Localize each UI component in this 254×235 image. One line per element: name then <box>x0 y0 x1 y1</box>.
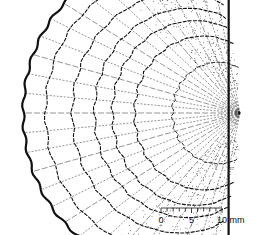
stipple-dot <box>197 215 198 216</box>
stipple-dot <box>226 67 227 68</box>
stipple-dot <box>193 38 194 39</box>
stipple-dot <box>194 58 195 59</box>
stipple-dot <box>164 4 165 5</box>
stipple-dot <box>200 209 201 210</box>
stipple-dot <box>215 165 216 166</box>
stipple-dot <box>197 171 198 172</box>
stipple-dot <box>200 173 201 174</box>
stipple-dot <box>186 191 187 192</box>
radial-rib <box>52 19 241 113</box>
stipple-dot <box>231 90 232 91</box>
stipple-dot <box>226 146 227 147</box>
stipple-dot <box>209 57 210 58</box>
stipple-dot <box>219 64 220 65</box>
stipple-dot <box>216 68 217 69</box>
stipple-dot <box>207 55 208 56</box>
stipple-dot <box>157 229 158 230</box>
stipple-dot <box>180 25 181 26</box>
stipple-dot <box>177 226 178 227</box>
stipple-dot <box>204 0 205 1</box>
stipple-dot <box>218 80 219 81</box>
stipple-dot <box>234 152 235 153</box>
stipple-dot <box>218 185 219 186</box>
stipple-dot <box>188 33 189 34</box>
stipple-dot <box>196 34 197 35</box>
stipple-dot <box>230 60 231 61</box>
stipple-dot <box>236 147 237 148</box>
stipple-dot <box>236 146 237 147</box>
stipple-dot <box>222 181 223 182</box>
stipple-dot <box>203 66 204 67</box>
stipple-dot <box>214 190 215 191</box>
stipple-dot <box>221 192 222 193</box>
stipple-dot <box>223 156 224 157</box>
stipple-dot <box>198 194 199 195</box>
stipple-dot <box>138 234 139 235</box>
stipple-dot <box>221 16 222 17</box>
stipple-dot <box>213 189 214 190</box>
stipple-dot <box>176 27 177 28</box>
stipple-dot <box>209 166 210 167</box>
stipple-dot <box>224 155 225 156</box>
stipple-dot <box>235 80 236 81</box>
stipple-dot <box>194 60 195 61</box>
stipple-dot <box>216 169 217 170</box>
stipple-dot <box>202 168 203 169</box>
stipple-dot <box>234 81 235 82</box>
stipple-dot <box>203 33 204 34</box>
stipple-dot <box>204 155 205 156</box>
stipple-dot <box>197 173 198 174</box>
stipple-dot <box>166 27 167 28</box>
stipple-dot <box>212 67 213 68</box>
stipple-dot <box>204 25 205 26</box>
stipple-dot <box>215 22 216 23</box>
stipple-dot <box>161 194 162 195</box>
stipple-dot <box>189 21 190 22</box>
stipple-dot <box>165 211 166 212</box>
stipple-dot <box>234 162 235 163</box>
stipple-dot <box>205 154 206 155</box>
stipple-dot <box>200 65 201 66</box>
stipple-dot <box>167 0 168 1</box>
stipple-dot <box>217 68 218 69</box>
stipple-dot <box>171 8 172 9</box>
stipple-dot <box>157 12 158 13</box>
stipple-dot <box>174 197 175 198</box>
stipple-dot <box>190 182 191 183</box>
stipple-dot <box>212 19 213 20</box>
stipple-dot <box>185 231 186 232</box>
radial-rib <box>114 0 240 113</box>
stipple-dot <box>234 80 235 81</box>
stipple-dot <box>192 10 193 11</box>
stipple-dot <box>222 168 223 169</box>
stipple-dot <box>218 35 219 36</box>
stipple-dot <box>208 32 209 33</box>
stipple-dot <box>230 174 231 175</box>
stipple-dot <box>212 50 213 51</box>
stipple-dot <box>213 234 214 235</box>
stipple-dot <box>227 77 228 78</box>
stipple-dot <box>181 6 182 7</box>
stipple-dot <box>207 156 208 157</box>
stipple-dot <box>213 66 214 67</box>
stipple-dot <box>226 68 227 69</box>
stipple-dot <box>224 184 225 185</box>
stipple-dot <box>237 89 238 90</box>
stipple-dot <box>204 47 205 48</box>
stipple-dot <box>187 216 188 217</box>
stipple-dot <box>164 20 165 21</box>
stipple-dot <box>193 172 194 173</box>
stipple-dot <box>193 0 194 1</box>
stipple-dot <box>186 176 187 177</box>
stipple-dot <box>187 228 188 229</box>
stipple-dot <box>163 212 164 213</box>
stipple-dot <box>213 202 214 203</box>
stipple-dot <box>231 88 232 89</box>
stipple-dot <box>230 167 231 168</box>
stipple-dot <box>221 65 222 66</box>
stipple-dot <box>221 62 222 63</box>
stipple-dot <box>218 76 219 77</box>
stipple-dot <box>219 147 220 148</box>
stipple-dot <box>208 59 209 60</box>
stipple-dot <box>196 186 197 187</box>
